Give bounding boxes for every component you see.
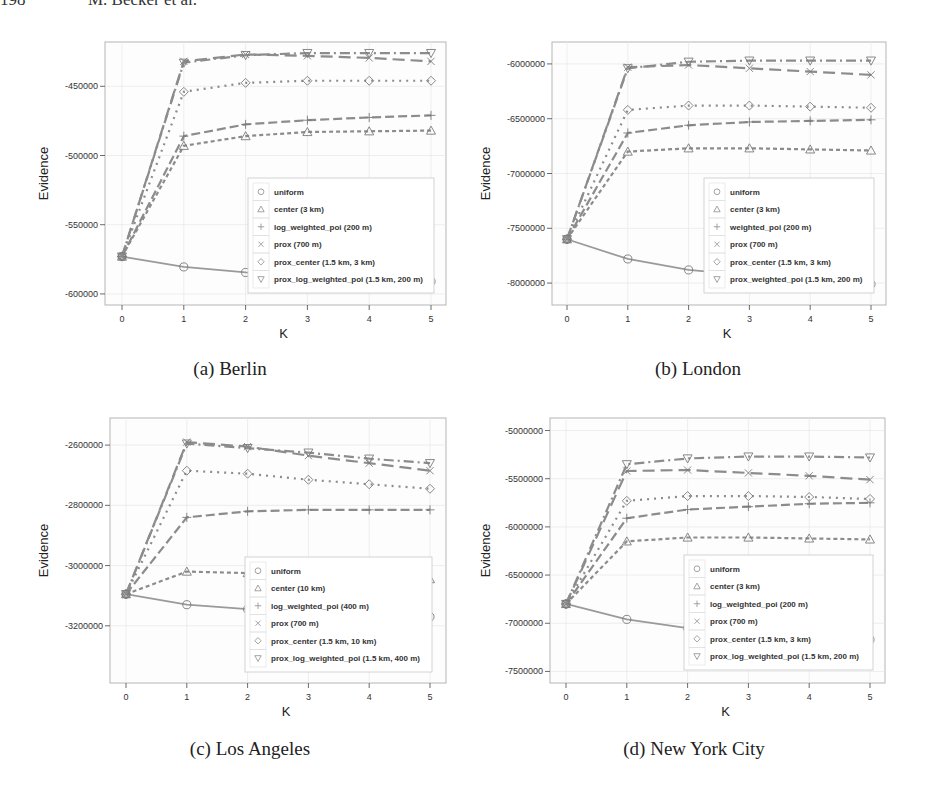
y-tick-label: -6500000 [505,570,543,580]
legend-label: prox_log_weighted_poi (1.5 km, 200 m) [710,652,859,661]
x-tick-label: 2 [685,692,690,702]
y-tick-label: -7500000 [505,666,543,676]
y-tick-label: -7000000 [505,618,543,628]
caption-los-angeles: (c) Los Angeles [190,738,310,760]
x-tick-label: 3 [746,692,751,702]
legend-label: prox (700 m) [710,617,758,626]
y-axis: -5000000-5500000-6000000-6500000-7000000… [505,426,550,677]
legend-label: log_weighted_poi (200 m) [710,600,808,609]
caption-london: (b) London [655,358,741,380]
x-tick-label: 1 [624,692,629,702]
y-tick-label: -6000000 [505,522,543,532]
y-axis-title: Evidence [478,524,493,577]
x-axis: 012345 [563,683,872,702]
legend-label: prox_center (1.5 km, 3 km) [710,635,811,644]
chart-svg: -5000000-5500000-6000000-6500000-7000000… [0,0,925,797]
legend-label: uniform [710,565,740,574]
caption-berlin: (a) Berlin [193,358,266,380]
caption-new-york-city: (d) New York City [623,738,764,760]
y-tick-label: -5000000 [505,426,543,436]
x-axis-title: K [721,704,730,719]
x-tick-label: 4 [807,692,812,702]
legend-label: center (3 km) [710,582,760,591]
y-tick-label: -5500000 [505,474,543,484]
legend: uniformcenter (3 km)log_weighted_poi (20… [684,555,873,670]
x-tick-label: 5 [867,692,872,702]
x-tick-label: 0 [563,692,568,702]
